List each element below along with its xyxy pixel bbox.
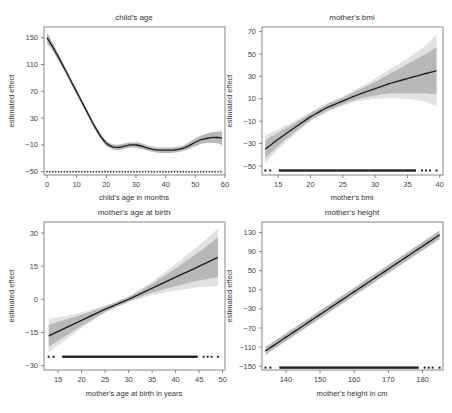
rug-mark <box>48 356 50 358</box>
rug-mark <box>58 171 59 173</box>
x-tick-label: 45 <box>195 375 203 384</box>
rug-mark <box>439 367 441 369</box>
effect-line <box>49 257 218 336</box>
rug-mark <box>209 171 210 173</box>
rug-mark <box>67 171 68 173</box>
rug-mark <box>203 171 204 173</box>
x-tick-label: 150 <box>314 375 327 384</box>
x-tick-label: 170 <box>382 375 395 384</box>
rug-mark <box>264 367 266 369</box>
rug-mark <box>217 356 219 358</box>
rug-mark <box>203 356 205 358</box>
y-tick-label: 90 <box>248 247 256 256</box>
rug-mark <box>104 171 105 173</box>
rug-mark <box>87 171 88 173</box>
y-tick-label: −50 <box>25 167 38 176</box>
x-tick-label: 160 <box>348 375 361 384</box>
y-tick-label: −110 <box>240 343 256 352</box>
y-tick-label: 70 <box>30 87 38 96</box>
y-axis-ticks: −150−110−70−30105090130 <box>239 228 262 371</box>
rug-mark <box>220 171 221 173</box>
y-tick-label: 30 <box>30 229 38 238</box>
rug-mark <box>421 170 423 172</box>
x-tick-label: 50 <box>218 375 226 384</box>
rug-mark <box>197 171 198 173</box>
rug-mark <box>428 367 430 369</box>
rug-mark <box>78 171 79 173</box>
x-tick-label: 15 <box>274 180 282 189</box>
rug-mark <box>119 171 120 173</box>
confidence-band <box>47 32 222 152</box>
rug-mark <box>61 171 62 173</box>
rug-mark <box>424 367 426 369</box>
rug-mark <box>130 171 131 173</box>
rug-mark <box>107 171 108 173</box>
rug-mark <box>84 171 85 173</box>
rug-mark <box>101 171 102 173</box>
y-tick-label: −30 <box>243 139 256 148</box>
y-axis-label: estimated effect <box>7 74 16 128</box>
rug-mark <box>69 171 70 173</box>
panel-title: mother's age at birth <box>98 208 171 217</box>
rug-mark <box>432 367 434 369</box>
rug-mark <box>183 171 184 173</box>
rug-mark <box>156 171 157 173</box>
panel-title: mother's bmi <box>329 13 375 22</box>
y-tick-label: 130 <box>243 228 256 237</box>
y-tick-label: −30 <box>243 304 256 313</box>
rug-mark <box>136 171 137 173</box>
y-tick-label: −150 <box>239 362 256 371</box>
rug-band <box>62 356 197 358</box>
plot-area <box>264 35 437 172</box>
rug-mark <box>174 171 175 173</box>
confidence-band <box>49 229 218 353</box>
x-axis-label: mother's height in cm <box>316 389 387 398</box>
y-tick-label: 50 <box>248 266 256 275</box>
rug-mark <box>191 171 192 173</box>
x-axis-label: mother's age at birth in years <box>86 389 183 398</box>
rug-mark <box>177 171 178 173</box>
rug-mark <box>269 367 271 369</box>
rug-mark <box>207 356 209 358</box>
x-tick-label: 40 <box>161 180 169 189</box>
rug-band <box>279 169 416 171</box>
y-axis-ticks: −50−103070110150 <box>25 33 44 176</box>
x-tick-label: 20 <box>102 180 110 189</box>
rug-mark <box>194 171 195 173</box>
x-tick-label: 180 <box>416 375 429 384</box>
x-tick-label: 140 <box>280 375 293 384</box>
x-tick-label: 30 <box>124 375 132 384</box>
x-tick-label: 35 <box>403 180 411 189</box>
rug-mark <box>125 171 126 173</box>
rug-mark <box>425 170 427 172</box>
rug-mark <box>154 171 155 173</box>
rug-mark <box>133 171 134 173</box>
rug-mark <box>127 171 128 173</box>
x-axis-label: child's age in months <box>99 193 169 202</box>
y-tick-label: 30 <box>248 72 256 81</box>
panel-title: mother's height <box>325 208 380 217</box>
figure: child's age 0102030405060 −50−1030701101… <box>0 0 452 413</box>
rug-mark <box>145 171 146 173</box>
x-axis-ticks: 140150160170180 <box>280 370 429 384</box>
rug-mark <box>217 171 218 173</box>
y-axis-label: estimated effect <box>7 269 16 323</box>
rug-mark <box>214 171 215 173</box>
y-tick-label: 30 <box>30 114 38 123</box>
panel-mothers-height: mother's height 140150160170180 −150−110… <box>225 208 443 398</box>
rug-mark <box>53 356 55 358</box>
y-tick-label: 0 <box>34 295 38 304</box>
rug-mark <box>211 356 213 358</box>
rug-mark <box>139 171 140 173</box>
x-axis-label: mother's bmi <box>331 193 374 202</box>
x-tick-label: 25 <box>101 375 109 384</box>
rug-mark <box>93 171 94 173</box>
rug-mark <box>55 171 56 173</box>
rug-band <box>279 366 418 368</box>
y-tick-label: −70 <box>243 324 256 333</box>
rug-mark <box>429 170 431 172</box>
x-tick-label: 30 <box>371 180 379 189</box>
rug-mark <box>148 171 149 173</box>
rug-mark <box>200 171 201 173</box>
y-axis-ticks: −30−1501530 <box>25 229 44 371</box>
